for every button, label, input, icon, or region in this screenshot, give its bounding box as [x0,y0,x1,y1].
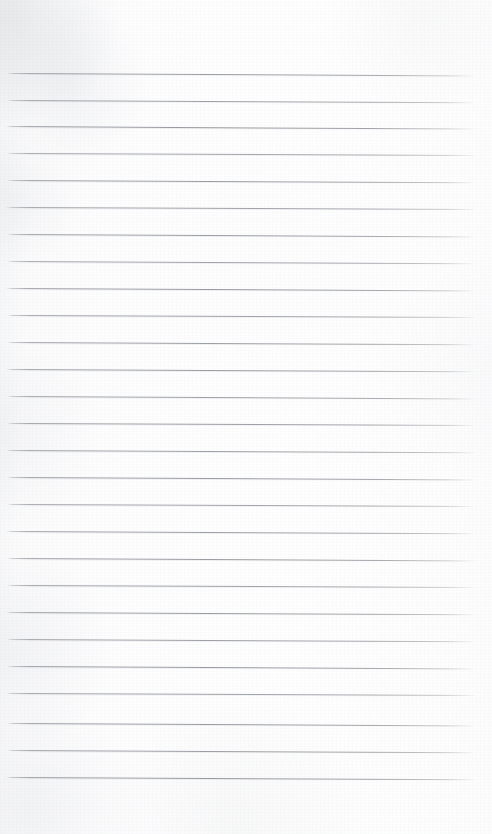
writing-area[interactable] [7,60,474,790]
scanned-page [0,0,492,834]
